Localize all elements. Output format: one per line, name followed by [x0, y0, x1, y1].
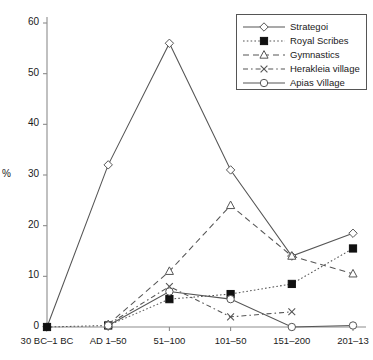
data-point [227, 201, 235, 209]
data-point [166, 296, 173, 303]
legend-label: Apias Village [290, 77, 345, 88]
data-point [288, 323, 295, 330]
legend: StrategoiRoyal ScribesGymnasticsHeraklei… [236, 14, 367, 90]
legend-label: Royal Scribes [290, 35, 349, 46]
data-point [260, 50, 268, 58]
y-tick-label: 20 [15, 219, 39, 230]
data-point [260, 79, 267, 86]
legend-item: Herakleia village [237, 61, 366, 76]
series-herakleia-village [105, 283, 295, 328]
y-tick-label: 60 [15, 16, 39, 27]
legend-label: Gymnastics [290, 49, 340, 60]
y-tick-label: 40 [15, 117, 39, 128]
data-point [43, 323, 50, 330]
y-tick-marks [43, 23, 47, 327]
legend-label: Strategoi [290, 21, 328, 32]
data-point [261, 65, 268, 72]
data-point [165, 39, 173, 47]
series-gymnastics [104, 201, 357, 328]
legend-label: Herakleia village [290, 63, 360, 74]
y-tick-label: 30 [15, 168, 39, 179]
data-point [105, 322, 112, 329]
legend-marker-open-diamond [241, 20, 287, 34]
data-point [226, 166, 234, 174]
data-point [227, 295, 234, 302]
legend-marker-open-triangle [241, 48, 287, 62]
data-point [349, 322, 356, 329]
line-chart: % 0102030405060 30 BC–1 BCAD 1–5051–1001… [0, 0, 373, 360]
data-point [349, 229, 357, 237]
data-point [288, 280, 295, 287]
legend-marker-cross-x [241, 62, 287, 76]
data-point [288, 308, 295, 315]
legend-item: Apias Village [237, 75, 366, 90]
legend-item: Strategoi [237, 19, 366, 34]
y-tick-label: 50 [15, 67, 39, 78]
legend-marker-open-circle [241, 76, 287, 90]
y-axis-title: % [2, 168, 11, 179]
x-tick-marks [47, 327, 353, 331]
data-point [104, 161, 112, 169]
y-tick-label: 10 [15, 269, 39, 280]
legend-item: Royal Scribes [237, 33, 366, 48]
data-point [349, 245, 356, 252]
data-point [260, 37, 267, 44]
legend-item: Gymnastics [237, 47, 366, 62]
series-royal-scribes [43, 245, 356, 331]
x-tick-label: 201–13 [308, 335, 373, 346]
y-tick-label: 0 [15, 320, 39, 331]
data-point [166, 288, 173, 295]
legend-marker-filled-square [241, 34, 287, 48]
data-point [260, 22, 268, 30]
